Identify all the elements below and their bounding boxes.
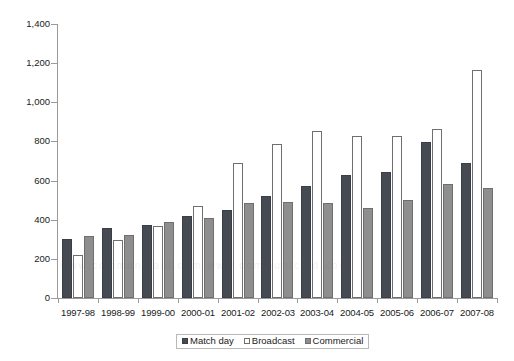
x-axis-tick	[178, 298, 179, 303]
bar-broadcast	[392, 136, 402, 298]
x-axis-tick	[417, 298, 418, 303]
legend-label: Commercial	[313, 336, 364, 346]
x-axis-line	[57, 298, 498, 299]
bar-broadcast	[153, 226, 163, 298]
bar-commercial	[403, 200, 413, 298]
chart-legend: Match dayBroadcastCommercial	[176, 334, 369, 349]
bar-matchday	[102, 228, 112, 298]
bar-commercial	[164, 222, 174, 298]
legend-swatch-broadcast-icon	[244, 338, 250, 344]
x-axis-tick	[58, 298, 59, 303]
legend-entry-commercial[interactable]: Commercial	[305, 336, 364, 346]
x-axis-tick	[377, 298, 378, 303]
bar-commercial	[363, 208, 373, 298]
bar-broadcast	[73, 255, 83, 298]
y-axis-tick-label: 600	[6, 176, 50, 186]
bar-matchday	[261, 196, 271, 298]
bar-matchday	[461, 163, 471, 298]
bar-matchday	[182, 216, 192, 298]
y-axis-tick-label: 400	[6, 215, 50, 225]
bar-matchday	[222, 210, 232, 298]
legend-entry-broadcast[interactable]: Broadcast	[244, 336, 295, 346]
bar-broadcast	[312, 131, 322, 298]
bar-commercial	[84, 236, 94, 298]
y-axis-tick	[51, 298, 58, 299]
x-axis-label: 1999-00	[138, 308, 178, 318]
y-axis-tick-label: 1,200	[6, 58, 50, 68]
x-axis-label: 1997-98	[58, 308, 98, 318]
bar-matchday	[62, 239, 72, 298]
x-axis-tick	[218, 298, 219, 303]
y-axis-tick	[51, 63, 58, 64]
y-axis-tick	[51, 181, 58, 182]
bar-commercial	[244, 203, 254, 298]
y-axis-tick	[51, 102, 58, 103]
bar-matchday	[421, 142, 431, 298]
x-axis-label: 2006-07	[417, 308, 457, 318]
legend-swatch-commercial-icon	[305, 338, 311, 344]
bar-matchday	[381, 172, 391, 298]
legend-label: Broadcast	[252, 336, 295, 346]
bar-commercial	[483, 188, 493, 298]
legend-label: Match day	[190, 336, 234, 346]
bar-broadcast	[352, 136, 362, 298]
bar-commercial	[283, 202, 293, 298]
bar-matchday	[341, 175, 351, 298]
bar-broadcast	[472, 70, 482, 298]
x-axis-label: 2007-08	[457, 308, 497, 318]
y-axis-tick	[51, 259, 58, 260]
bar-matchday	[142, 225, 152, 298]
legend-entry-matchday[interactable]: Match day	[182, 336, 234, 346]
x-axis-tick	[497, 298, 498, 303]
x-axis-tick	[337, 298, 338, 303]
bar-commercial	[443, 184, 453, 298]
bar-commercial	[323, 203, 333, 298]
bar-broadcast	[193, 206, 203, 298]
y-axis-line	[57, 24, 58, 299]
x-axis-label: 2005-06	[377, 308, 417, 318]
x-axis-tick	[258, 298, 259, 303]
bar-broadcast	[113, 240, 123, 298]
y-axis-tick-label: 800	[6, 136, 50, 146]
bar-commercial	[124, 235, 134, 298]
y-axis-tick-label: 1,000	[6, 97, 50, 107]
x-axis-tick	[297, 298, 298, 303]
x-axis-label: 2000-01	[178, 308, 218, 318]
x-axis-label: 2004-05	[337, 308, 377, 318]
x-axis-tick	[138, 298, 139, 303]
y-axis-tick	[51, 220, 58, 221]
x-axis-label: 1998-99	[98, 308, 138, 318]
legend-swatch-matchday-icon	[182, 338, 188, 344]
bar-matchday	[301, 186, 311, 298]
bar-commercial	[204, 218, 214, 298]
x-axis-label: 2003-04	[297, 308, 337, 318]
bar-broadcast	[272, 144, 282, 298]
bar-broadcast	[432, 129, 442, 298]
bar-broadcast	[233, 163, 243, 298]
y-axis-tick-label: 200	[6, 254, 50, 264]
x-axis-label: 2001-02	[218, 308, 258, 318]
y-axis-tick-label: 1,400	[6, 19, 50, 29]
y-axis-tick	[51, 141, 58, 142]
x-axis-tick	[457, 298, 458, 303]
y-axis-tick-label: 0	[6, 293, 50, 303]
bar-chart: 02004006008001,0001,2001,400 1997-981998…	[0, 0, 514, 361]
x-axis-label: 2002-03	[258, 308, 298, 318]
x-axis-tick	[98, 298, 99, 303]
y-axis-tick	[51, 24, 58, 25]
